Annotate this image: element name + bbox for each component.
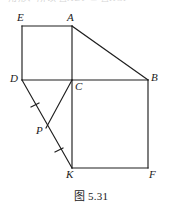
vertex-label-K: K <box>66 169 73 180</box>
vertex-label-A: A <box>67 12 74 23</box>
vertex-label-P: P <box>36 125 43 136</box>
segment-C-P <box>46 80 72 128</box>
segment-A-B <box>72 26 148 80</box>
geometry-diagram <box>0 0 182 212</box>
figure-container: 角形、所以 △ADP ≌ △KCP E A D C B P K F 图 5.31 <box>0 0 182 212</box>
figure-caption: 图 5.31 <box>0 190 182 203</box>
vertex-label-E: E <box>17 12 24 23</box>
vertex-label-F: F <box>149 169 156 180</box>
vertex-label-B: B <box>151 72 158 83</box>
vertex-label-D: D <box>10 73 18 84</box>
vertex-label-C: C <box>75 81 82 92</box>
